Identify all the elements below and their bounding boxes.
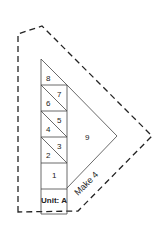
piece-label-8: 8 xyxy=(46,74,51,83)
piece-label-4: 4 xyxy=(46,125,51,134)
piece-label-5: 5 xyxy=(57,116,62,125)
unit-label: Unit: A xyxy=(41,196,67,205)
piece-column xyxy=(41,59,67,214)
piece-label-9: 9 xyxy=(85,133,90,142)
piece-label-7: 7 xyxy=(57,90,62,99)
piece-label-2: 2 xyxy=(46,151,51,160)
unit-a-diagram: 8 7 6 5 4 3 2 1 9 Unit: A Make 4 xyxy=(0,0,153,227)
piece-label-6: 6 xyxy=(46,99,51,108)
piece-label-1: 1 xyxy=(52,171,57,180)
piece-label-3: 3 xyxy=(57,142,62,151)
quantity-label: Make 4 xyxy=(72,169,100,197)
